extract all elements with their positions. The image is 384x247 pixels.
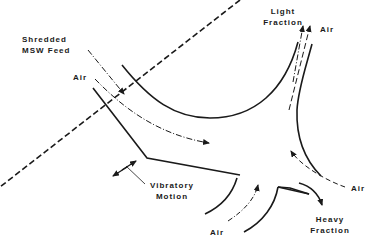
heavy-fraction-flow-arrow <box>299 183 322 205</box>
label-heavy-fraction: Heavy Fraction <box>302 214 358 236</box>
feed-flow-arrow <box>88 50 124 94</box>
upper-curved-wall <box>122 42 298 118</box>
label-shredded-msw-feed: Shredded MSW Feed <box>22 34 70 56</box>
label-air-top-right: Air <box>320 24 334 35</box>
bottom-louver-right <box>244 187 278 232</box>
label-air-left: Air <box>73 72 87 83</box>
air-right-flow-arrow <box>291 151 345 187</box>
label-air-right: Air <box>351 183 365 194</box>
bottom-louver-left <box>205 178 237 214</box>
vibrating-deck <box>93 88 240 175</box>
air-up-flow-arrow <box>289 26 310 110</box>
deck-tail <box>278 187 309 194</box>
air-left-flow-arrow <box>95 79 209 143</box>
label-light-fraction: Light Fraction <box>255 6 311 28</box>
deck-segment-dashed <box>0 0 240 187</box>
vibratory-leader-line <box>126 166 145 184</box>
label-air-bottom: Air <box>210 227 224 238</box>
label-vibratory-motion: Vibratory Motion <box>144 180 200 202</box>
